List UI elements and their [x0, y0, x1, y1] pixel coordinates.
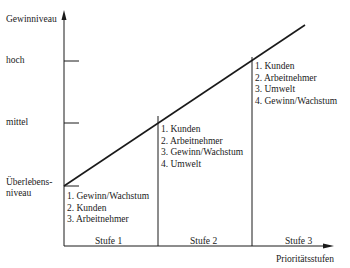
priority-item: 1. Kunden — [161, 124, 243, 136]
level-label-hoch: hoch — [6, 55, 24, 66]
stage-1-priorities: 1. Gewinn/Wachstum 2. Kunden 3. Arbeitne… — [67, 191, 149, 226]
priority-item: 1. Gewinn/Wachstum — [67, 191, 149, 203]
level-label-mittel: mittel — [6, 117, 28, 128]
priority-item: 2. Kunden — [67, 203, 149, 215]
stage-3-priorities: 1. Kunden 2. Arbeitnehmer 3. Umwelt 4. G… — [255, 61, 337, 107]
stage-3-label: Stufe 3 — [285, 236, 312, 247]
level-label-ueberleben-line1: Überlebens- — [6, 177, 52, 188]
level-label-ueberleben: Überlebens- niveau — [6, 177, 52, 199]
priority-item: 1. Kunden — [255, 61, 337, 73]
x-axis-arrow-icon — [323, 244, 334, 249]
priority-item: 4. Umwelt — [161, 159, 243, 171]
priority-item: 4. Gewinn/Wachstum — [255, 96, 337, 108]
stage-2-priorities: 1. Kunden 2. Arbeitnehmer 3. Gewinn/Wach… — [161, 124, 243, 170]
y-axis-label: Gewinniveau — [6, 14, 57, 25]
priority-item: 3. Umwelt — [255, 84, 337, 96]
priority-item: 3. Arbeitnehmer — [67, 214, 149, 226]
stage-2-label: Stufe 2 — [190, 236, 217, 247]
y-axis-arrow-icon — [62, 10, 67, 20]
priority-item: 3. Gewinn/Wachstum — [161, 147, 243, 159]
priority-item: 2. Arbeitnehmer — [255, 73, 337, 85]
level-label-ueberleben-line2: niveau — [6, 188, 52, 199]
priority-item: 2. Arbeitnehmer — [161, 136, 243, 148]
x-axis-label: Prioritätsstufen — [276, 254, 334, 265]
stage-1-label: Stufe 1 — [95, 236, 122, 247]
